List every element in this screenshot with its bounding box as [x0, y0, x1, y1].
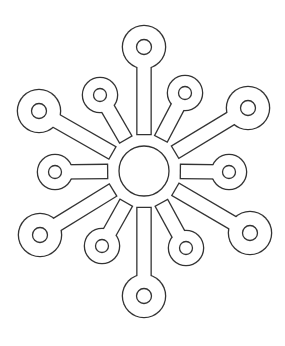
- ring-lower-right-big: [229, 212, 271, 254]
- center-circle: [119, 146, 169, 196]
- ring-upper-right-big: [227, 87, 269, 129]
- ring-upper-left-small: [83, 78, 117, 112]
- ring-upper-left-big: [18, 90, 60, 132]
- ring-bottom: [123, 275, 165, 317]
- ring-right: [212, 155, 246, 189]
- ring-upper-right-small: [168, 76, 202, 110]
- snowflake-drawing: [0, 0, 285, 346]
- ring-lower-left-small: [85, 229, 119, 263]
- ring-top: [123, 26, 165, 68]
- ring-lower-right-small: [169, 231, 203, 265]
- ring-lower-left-big: [19, 214, 61, 256]
- ring-left: [38, 155, 72, 189]
- coloring-page: Snowflake coloring page: [0, 0, 285, 346]
